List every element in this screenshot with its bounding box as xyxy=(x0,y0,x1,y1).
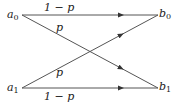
edge-label-a1-b1: 1 − p xyxy=(44,91,74,102)
edge-label-a1-b0: p xyxy=(56,67,63,78)
node-a1: a1 xyxy=(7,82,19,95)
node-b0: b0 xyxy=(159,8,171,21)
edge-label-a0-b0: 1 − p xyxy=(44,2,74,13)
edges-canvas xyxy=(0,0,175,105)
channel-diagram: a0 a1 b0 b1 1 − p p p 1 − p xyxy=(0,0,175,105)
node-b1: b1 xyxy=(159,81,171,94)
edge-label-a0-b1: p xyxy=(56,22,63,33)
node-a0: a0 xyxy=(7,9,19,22)
